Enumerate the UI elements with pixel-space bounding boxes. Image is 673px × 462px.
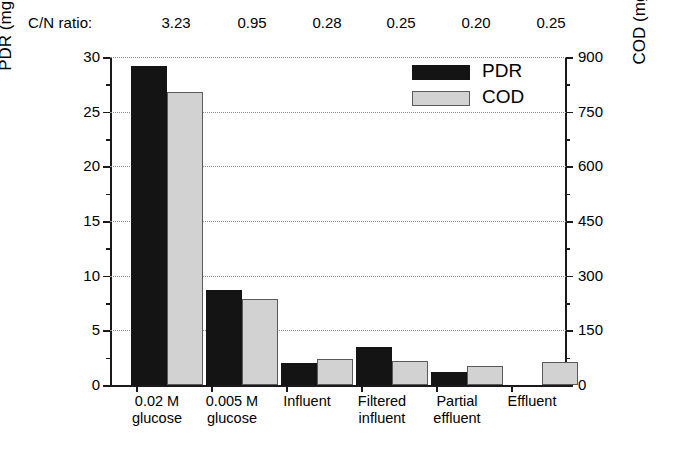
cn-ratio-row: C/N ratio: 3.23 0.95 0.28 0.25 0.20 0.25 xyxy=(0,14,673,34)
y-axis-left-tick-label: 0 xyxy=(60,376,100,393)
bar-pdr xyxy=(206,290,242,385)
y-tick-left xyxy=(103,57,110,59)
bar-cod xyxy=(317,359,353,385)
y-axis-left-tick-label: 5 xyxy=(60,321,100,338)
x-tick xyxy=(361,385,363,392)
cn-ratio-value: 0.20 xyxy=(446,14,506,31)
legend-swatch-pdr xyxy=(412,65,470,80)
y-tick-right xyxy=(566,221,573,223)
bar-cod xyxy=(542,362,578,385)
gridline xyxy=(110,57,566,58)
bar-cod xyxy=(167,92,203,385)
bar-pdr xyxy=(281,363,317,385)
cn-ratio-value: 3.23 xyxy=(146,14,206,31)
y-tick-right-minor xyxy=(566,84,570,86)
y-axis-left-tick-label: 10 xyxy=(60,267,100,284)
y-tick-right xyxy=(566,112,573,114)
y-axis-right-tick-label: 150 xyxy=(578,321,624,338)
cn-ratio-label: C/N ratio: xyxy=(28,14,92,31)
y-tick-left-minor xyxy=(106,248,110,250)
x-category-line: glucose xyxy=(184,410,280,427)
bar-cod xyxy=(467,366,503,385)
x-tick xyxy=(211,385,213,392)
x-tick xyxy=(436,385,438,392)
y-tick-right-minor xyxy=(566,303,570,305)
y-tick-right xyxy=(566,57,573,59)
y-tick-right xyxy=(566,330,573,332)
y-tick-right-minor xyxy=(566,358,570,360)
y-tick-left-minor xyxy=(106,358,110,360)
y-axis-left-title: PDR (mg kg−1sand h−1) xyxy=(0,0,16,135)
legend-label-pdr: PDR xyxy=(482,60,522,82)
bar-pdr xyxy=(431,372,467,385)
y-axis-right-tick-label: 900 xyxy=(578,48,624,65)
y-tick-right xyxy=(566,385,573,387)
y-tick-left xyxy=(103,112,110,114)
y-tick-right-minor xyxy=(566,194,570,196)
cn-ratio-value: 0.95 xyxy=(222,14,282,31)
y-tick-left xyxy=(103,221,110,223)
y-axis-left-tick-label: 20 xyxy=(60,157,100,174)
y-axis-right-tick-label: 600 xyxy=(578,157,624,174)
y-axis-right-tick-label: 0 xyxy=(578,376,624,393)
y-axis-left-tick-label: 30 xyxy=(60,48,100,65)
y-tick-left-minor xyxy=(106,139,110,141)
cn-ratio-value: 0.28 xyxy=(297,14,357,31)
x-category-line: Effluent xyxy=(484,393,580,410)
y-tick-left xyxy=(103,166,110,168)
legend-swatch-cod xyxy=(412,91,470,106)
bar-pdr xyxy=(356,347,392,385)
y-axis-right-tick-label: 450 xyxy=(578,212,624,229)
y-axis-right-title: COD (mg L−1) xyxy=(628,0,650,142)
x-tick xyxy=(136,385,138,392)
y-tick-left-minor xyxy=(106,84,110,86)
y-axis-right-tick-label: 300 xyxy=(578,267,624,284)
y-tick-left xyxy=(103,385,110,387)
bar-pdr xyxy=(131,66,167,385)
y-tick-left-minor xyxy=(106,303,110,305)
y-tick-right xyxy=(566,166,573,168)
y-tick-left xyxy=(103,330,110,332)
y-tick-left xyxy=(103,276,110,278)
cn-ratio-value: 0.25 xyxy=(521,14,581,31)
y-tick-right-minor xyxy=(566,139,570,141)
legend-label-cod: COD xyxy=(482,86,524,108)
bar-cod xyxy=(242,299,278,385)
x-tick xyxy=(286,385,288,392)
bar-cod xyxy=(392,361,428,385)
y-tick-right-minor xyxy=(566,248,570,250)
y-axis-left-tick-label: 15 xyxy=(60,212,100,229)
y-axis-right-tick-label: 750 xyxy=(578,103,624,120)
figure-panel: C/N ratio: 3.23 0.95 0.28 0.25 0.20 0.25 xyxy=(0,0,673,462)
x-axis-line xyxy=(110,385,567,387)
y-axis-left-tick-label: 25 xyxy=(60,103,100,120)
y-tick-right xyxy=(566,276,573,278)
cn-ratio-value: 0.25 xyxy=(371,14,431,31)
x-category-line: effluent xyxy=(409,410,505,427)
y-tick-left-minor xyxy=(106,194,110,196)
x-category-label: Effluent xyxy=(484,393,580,410)
x-tick xyxy=(511,385,513,392)
